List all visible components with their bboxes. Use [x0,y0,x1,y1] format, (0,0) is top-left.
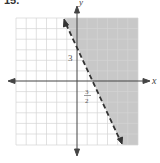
inequality-graph: y x 3 3 2 [0,0,160,163]
x-intercept-numerator: 3 [85,88,89,96]
x-axis-label: x [151,75,157,86]
y-intercept-label: 3 [68,53,73,63]
x-intercept-denominator: 2 [85,97,89,105]
y-axis-label: y [78,0,83,7]
